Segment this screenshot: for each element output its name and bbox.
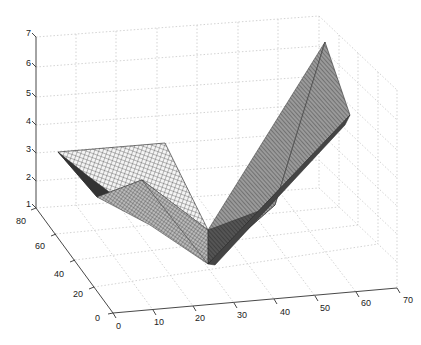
surface-plot: 7 6 5 4 3 2 1 80 60 40 20 0 0 10 20 30 4… xyxy=(0,0,421,345)
svg-text:70: 70 xyxy=(403,295,413,305)
svg-text:80: 80 xyxy=(16,216,26,226)
svg-text:30: 30 xyxy=(237,310,247,320)
svg-text:6: 6 xyxy=(26,58,31,68)
svg-text:60: 60 xyxy=(361,298,371,308)
x-axis xyxy=(113,288,397,313)
z-tick-labels: 7 6 5 4 3 2 1 xyxy=(26,28,31,209)
svg-text:40: 40 xyxy=(54,269,64,279)
svg-text:7: 7 xyxy=(26,28,31,38)
svg-text:4: 4 xyxy=(26,116,31,126)
svg-text:3: 3 xyxy=(26,144,31,154)
x-tick-labels: 0 10 20 30 40 50 60 70 xyxy=(116,295,413,331)
svg-text:50: 50 xyxy=(320,303,330,313)
svg-text:20: 20 xyxy=(195,313,205,323)
svg-text:5: 5 xyxy=(26,88,31,98)
svg-text:0: 0 xyxy=(116,321,121,331)
svg-text:40: 40 xyxy=(280,307,290,317)
svg-text:10: 10 xyxy=(154,317,164,327)
svg-text:2: 2 xyxy=(26,172,31,182)
y-tick-labels: 80 60 40 20 0 xyxy=(16,216,100,323)
svg-text:60: 60 xyxy=(35,241,45,251)
surface-mesh xyxy=(58,42,350,265)
svg-text:0: 0 xyxy=(95,313,100,323)
svg-text:1: 1 xyxy=(26,199,31,209)
svg-text:20: 20 xyxy=(73,289,83,299)
